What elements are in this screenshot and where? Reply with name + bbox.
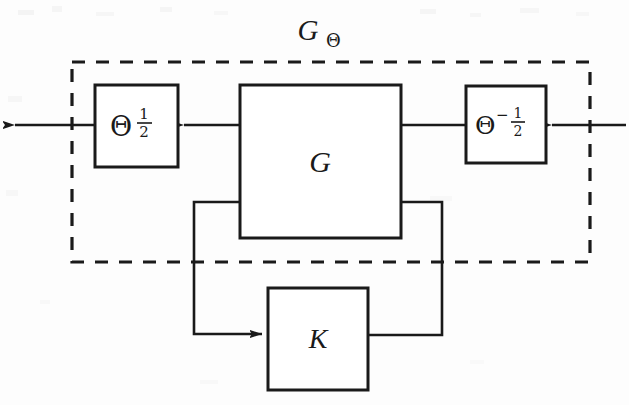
group-label-subscript: Θ	[326, 30, 341, 51]
block-theta-half: Θ 1 2	[95, 85, 178, 167]
block-controller-k-label: K	[308, 323, 329, 354]
block-theta-half-exponent-numerator: 1	[139, 105, 149, 123]
block-theta-neg-half-exponent-sign: −	[496, 106, 509, 124]
block-plant-g-label: G	[309, 145, 331, 178]
block-theta-neg-half-base: Θ	[475, 111, 496, 140]
block-theta-half-exponent-denominator: 2	[139, 123, 149, 141]
block-diagram-figure: Θ 1 2 G Θ − 1 2 K G Θ	[0, 0, 629, 405]
block-plant-g: G	[240, 85, 401, 238]
diagram-canvas: Θ 1 2 G Θ − 1 2 K G Θ	[0, 0, 629, 405]
block-controller-k: K	[268, 288, 368, 390]
group-label-base: G	[298, 14, 319, 46]
block-theta-half-border	[95, 85, 178, 167]
block-theta-neg-half-exponent-denominator: 2	[514, 123, 523, 139]
block-theta-neg-half-exponent-numerator: 1	[514, 105, 523, 121]
block-theta-half-base: Θ	[110, 111, 132, 142]
group-label-g-theta: G Θ	[298, 14, 341, 51]
block-theta-neg-half: Θ − 1 2	[466, 86, 546, 163]
